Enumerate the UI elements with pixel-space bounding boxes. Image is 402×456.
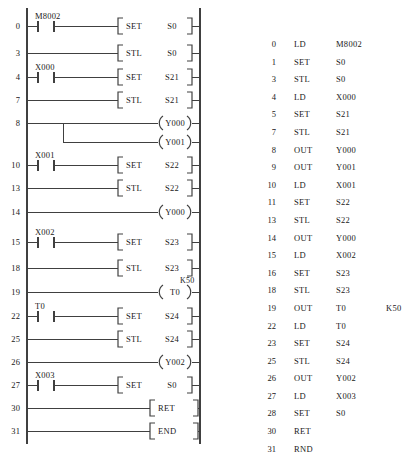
il-step-number: 26	[258, 374, 276, 383]
contact-label-M8002: M8002	[35, 12, 61, 21]
instruction-operand-S24-25: S24	[154, 335, 190, 344]
instruction-op-RET-30: RET	[158, 404, 175, 413]
il-mnemonic: OUT	[294, 374, 312, 383]
instruction-list-row: 23SETS24	[258, 339, 398, 357]
il-operand: S21	[336, 110, 350, 119]
il-mnemonic: SET	[294, 409, 310, 418]
il-step-number: 13	[258, 216, 276, 225]
instruction-op-SET-22: SET	[126, 312, 142, 321]
instruction-list-row: 4LDX000	[258, 93, 398, 111]
il-mnemonic: RET	[294, 427, 311, 436]
instruction-list-row: 30RET	[258, 427, 398, 445]
instruction-op-STL-7: STL	[126, 96, 142, 105]
il-mnemonic: LD	[294, 181, 306, 190]
il-step-number: 22	[258, 322, 276, 331]
il-step-number: 10	[258, 181, 276, 190]
instruction-list-row: 1SETS0	[258, 58, 398, 76]
il-step-number: 15	[258, 251, 276, 260]
contact-label-X002: X002	[35, 228, 55, 237]
instruction-operand-S0-3: S0	[154, 49, 190, 58]
instruction-list-row: 3STLS0	[258, 75, 398, 93]
instruction-op-SET-10: SET	[126, 161, 142, 170]
il-operand: S21	[336, 128, 350, 137]
il-operand: Y001	[336, 163, 356, 172]
block-bracket-left	[118, 18, 123, 34]
contact-label-X003: X003	[35, 371, 55, 380]
rung-step-number-13: 13	[0, 184, 20, 193]
block-bracket-left	[118, 180, 123, 196]
contact-label-T0: T0	[35, 302, 45, 311]
rung-step-number-25: 25	[0, 335, 20, 344]
il-mnemonic: RND	[294, 445, 313, 454]
il-step-number: 23	[258, 339, 276, 348]
il-step-number: 14	[258, 234, 276, 243]
il-operand: M8002	[336, 40, 362, 49]
il-operand: S22	[336, 216, 350, 225]
il-step-number: 9	[258, 163, 276, 172]
instruction-op-SET-0: SET	[126, 22, 142, 31]
il-mnemonic: LD	[294, 40, 306, 49]
il-mnemonic: STL	[294, 286, 310, 295]
instruction-list: 0LDM80021SETS03STLS04LDX0005SETS217STLS2…	[258, 40, 398, 456]
il-operand: S23	[336, 286, 350, 295]
contact-label-X000: X000	[35, 63, 55, 72]
il-mnemonic: STL	[294, 75, 310, 84]
instruction-list-row: 13STLS22	[258, 216, 398, 234]
rung-step-number-14: 14	[0, 208, 20, 217]
instruction-operand-S23-18: S23	[154, 264, 190, 273]
instruction-op-SET-4: SET	[126, 73, 142, 82]
instruction-op-END-31: END	[158, 427, 176, 436]
il-mnemonic: LD	[294, 392, 306, 401]
il-operand: S0	[336, 409, 346, 418]
il-step-number: 4	[258, 93, 276, 102]
coil-operand-Y002: Y002	[162, 358, 188, 367]
instruction-list-row: 31RND	[258, 445, 398, 456]
coil-operand-Y001: Y001	[162, 138, 188, 147]
rung-step-number-4: 4	[0, 73, 20, 82]
il-operand: S0	[336, 58, 346, 67]
il-mnemonic: OUT	[294, 234, 312, 243]
block-bracket-left	[118, 308, 123, 324]
il-step-number: 31	[258, 445, 276, 454]
rung-step-number-7: 7	[0, 96, 20, 105]
block-bracket-left	[118, 260, 123, 276]
instruction-operand-S21-4: S21	[154, 73, 190, 82]
il-operand: S24	[336, 339, 350, 348]
ladder-diagram: 0M8002SETS03STLS04X000SETS217STLS218Y000…	[0, 0, 230, 450]
il-mnemonic: SET	[294, 110, 310, 119]
instruction-list-row: 16SETS23	[258, 269, 398, 287]
contact-label-X001: X001	[35, 151, 55, 160]
instruction-operand-S0-27: S0	[154, 381, 190, 390]
il-operand: X000	[336, 93, 356, 102]
il-step-number: 5	[258, 110, 276, 119]
block-bracket-left	[118, 45, 123, 61]
rung-step-number-8: 8	[0, 119, 20, 128]
block-bracket-right	[193, 423, 198, 439]
coil-operand-Y000: Y000	[162, 119, 188, 128]
il-mnemonic: LD	[294, 251, 306, 260]
coil-operand-Y000: Y000	[162, 208, 188, 217]
il-operand: X003	[336, 392, 356, 401]
rung-step-number-26: 26	[0, 358, 20, 367]
instruction-list-row: 0LDM8002	[258, 40, 398, 58]
instruction-operand-S22-10: S22	[154, 161, 190, 170]
block-bracket-left	[118, 331, 123, 347]
il-step-number: 16	[258, 269, 276, 278]
instruction-op-STL-25: STL	[126, 335, 142, 344]
instruction-op-SET-15: SET	[126, 238, 142, 247]
il-operand: Y002	[336, 374, 356, 383]
il-step-number: 1	[258, 58, 276, 67]
block-bracket-left	[118, 69, 123, 85]
rung-step-number-19: 19	[0, 288, 20, 297]
instruction-list-row: 18STLS23	[258, 286, 398, 304]
instruction-list-row: 10LDX001	[258, 181, 398, 199]
block-bracket-left	[150, 423, 155, 439]
il-operand: S22	[336, 198, 350, 207]
block-bracket-left	[118, 234, 123, 250]
il-mnemonic: OUT	[294, 163, 312, 172]
instruction-list-row: 11SETS22	[258, 198, 398, 216]
il-operand: T0	[336, 304, 346, 313]
il-mnemonic: STL	[294, 128, 310, 137]
instruction-op-STL-3: STL	[126, 49, 142, 58]
instruction-list-row: 25STLS24	[258, 357, 398, 375]
